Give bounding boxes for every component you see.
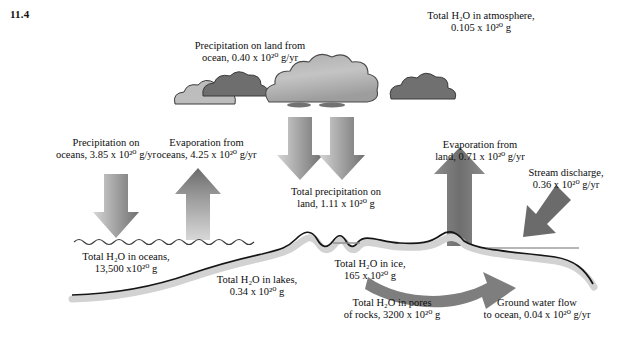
label-precip-land-line1: Precipitation on land from (160, 40, 340, 52)
label-groundwater-line1: Ground water flow (452, 297, 622, 309)
label-ground-water-flow: Ground water flow to ocean, 0.04 x 10²⁰ … (452, 297, 622, 322)
label-total-precip-line2: land, 1.11 x 10²⁰ g (256, 198, 416, 210)
label-ice-line1: Total H₂O in ice, (310, 258, 430, 270)
cloud-dark-left (203, 72, 268, 96)
label-evaporation-oceans: Evaporation from oceans, 4.25 x 10²⁰ g/y… (124, 137, 289, 162)
label-groundwater-line2: to ocean, 0.04 x 10²⁰ g/yr (452, 309, 622, 321)
label-stream-line2: 0.36 x 10²⁰ g/yr (502, 179, 630, 191)
ocean-surface-waves (74, 240, 254, 245)
label-total-precipitation-land: Total precipitation on land, 1.11 x 10²⁰… (256, 186, 416, 211)
label-atmosphere: Total H₂O in atmosphere, 0.105 x 10²⁰ g (396, 10, 566, 35)
label-stream-line1: Stream discharge, (502, 167, 630, 179)
label-precip-land-line2: ocean, 0.40 x 10²⁰ g/yr (160, 52, 340, 64)
label-precipitation-land-from-ocean: Precipitation on land from ocean, 0.40 x… (160, 40, 340, 65)
label-total-lakes: Total H₂O in lakes, 0.34 x 10²⁰ g (192, 274, 322, 299)
arrow-stream-discharge (523, 185, 571, 237)
label-ice-line2: 165 x 10²⁰ g (310, 270, 430, 282)
label-atmosphere-line2: 0.105 x 10²⁰ g (396, 22, 566, 34)
label-pores-line1: Total H₂O in pores (312, 297, 472, 309)
figure-canvas: 11.4 (0, 0, 630, 343)
label-evap-oceans-line2: oceans, 4.25 x 10²⁰ g/yr (124, 149, 289, 161)
arrow-precipitation-oceans (93, 174, 139, 238)
label-evap-land-line2: land, 0.71 x 10²⁰ g/yr (400, 151, 560, 163)
label-stream-discharge: Stream discharge, 0.36 x 10²⁰ g/yr (502, 167, 630, 192)
label-total-pores-of-rocks: Total H₂O in pores of rocks, 3200 x 10²⁰… (312, 297, 472, 322)
label-oceans-line2: 13,500 x10²⁰ g (60, 263, 192, 275)
label-pores-line2: of rocks, 3200 x 10²⁰ g (312, 309, 472, 321)
label-total-precip-line1: Total precipitation on (256, 186, 416, 198)
label-evaporation-land: Evaporation from land, 0.71 x 10²⁰ g/yr (400, 139, 560, 164)
arrow-precipitation-land-2 (319, 117, 365, 180)
label-lakes-line1: Total H₂O in lakes, (192, 274, 322, 286)
label-atmosphere-line1: Total H₂O in atmosphere, (396, 10, 566, 22)
label-evap-land-line1: Evaporation from (400, 139, 560, 151)
label-evap-oceans-line1: Evaporation from (124, 137, 289, 149)
label-total-oceans: Total H₂O in oceans, 13,500 x10²⁰ g (60, 251, 192, 276)
label-oceans-line1: Total H₂O in oceans, (60, 251, 192, 263)
arrow-evaporation-oceans (175, 168, 221, 240)
label-total-ice: Total H₂O in ice, 165 x 10²⁰ g (310, 258, 430, 283)
label-lakes-line2: 0.34 x 10²⁰ g (192, 286, 322, 298)
cloud-dark-right (390, 73, 456, 99)
